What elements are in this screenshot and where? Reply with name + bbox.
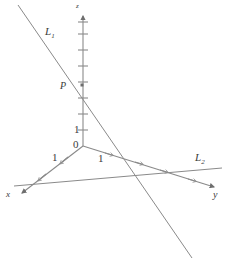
x-axis-label: x	[6, 190, 10, 199]
z-axis-label: z	[76, 3, 79, 10]
figure-canvas	[0, 0, 229, 263]
y-axis-unit-label: 1	[98, 153, 104, 164]
point-p-marker	[81, 84, 84, 87]
z-axis-unit-label: 1	[74, 124, 80, 135]
line-L2-label-sub: 2	[201, 158, 205, 166]
origin-label: 0	[73, 139, 79, 150]
z-axis	[78, 16, 88, 146]
y-axis-label: y	[213, 190, 217, 200]
line-L2	[14, 168, 222, 186]
x-axis-unit-label: 1	[52, 152, 58, 163]
line-L2-label: L2	[195, 152, 205, 166]
line-L1-label: L1	[45, 26, 55, 40]
line-L1-label-sub: 1	[51, 32, 55, 40]
line-L1	[18, 5, 192, 258]
point-p-label: P	[60, 81, 66, 91]
coordinate-system-figure: z y x L1 L2 P 0 1 1 1	[0, 0, 229, 263]
